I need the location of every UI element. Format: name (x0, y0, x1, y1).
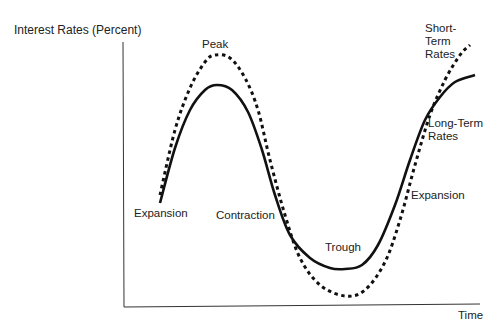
trough-label: Trough (325, 241, 361, 254)
short-term-rates-label: Short-Term Rates (425, 22, 481, 61)
y-axis-label: Interest Rates (Percent) (14, 24, 141, 37)
short-term-rates-line (160, 45, 470, 296)
peak-label: Peak (202, 38, 228, 51)
x-axis-label: Time (458, 309, 483, 322)
expansion-left-label: Expansion (134, 207, 188, 220)
long-term-rates-label: Long-Term Rates (428, 117, 484, 143)
y-axis (123, 42, 124, 307)
long-term-rates-line (160, 75, 475, 269)
expansion-right-label: Expansion (411, 189, 465, 202)
interest-rate-cycle-chart (0, 0, 497, 331)
contraction-label: Contraction (216, 209, 275, 222)
x-axis (124, 304, 480, 307)
